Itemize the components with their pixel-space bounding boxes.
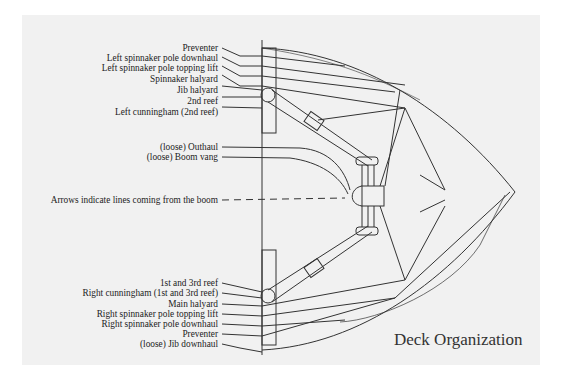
clutch-box-bottom xyxy=(262,250,276,345)
label-2nd-reef: 2nd reef xyxy=(187,96,218,107)
diagram-title: Deck Organization xyxy=(394,330,523,350)
deck-diagram xyxy=(0,0,563,383)
annotation-boom-arrows: Arrows indicate lines coming from the bo… xyxy=(51,195,218,206)
label-left-spinnaker-pole-topping-lift: Left spinnaker pole topping lift xyxy=(102,63,218,74)
boom-gooseneck xyxy=(352,186,362,206)
label-right-cunningham: Right cunningham (1st and 3rd reef) xyxy=(82,288,218,299)
hull-inner-top xyxy=(262,48,420,100)
label-left-cunningham: Left cunningham (2nd reef) xyxy=(115,107,218,118)
label-jib-halyard: Jib halyard xyxy=(177,85,218,96)
label-spinnaker-halyard: Spinnaker halyard xyxy=(150,74,218,85)
label-loose-boom-vang: (loose) Boom vang xyxy=(147,152,218,163)
mast-base xyxy=(362,186,384,206)
label-loose-jib-downhaul: (loose) Jib downhaul xyxy=(140,339,218,350)
